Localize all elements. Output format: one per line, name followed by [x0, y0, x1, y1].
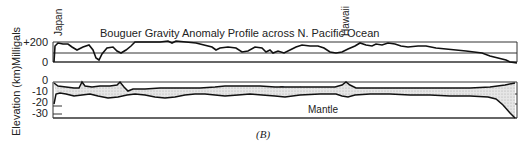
moho-line: [54, 93, 515, 118]
gravity-curve: [54, 41, 517, 63]
profile-plot: [0, 0, 527, 146]
